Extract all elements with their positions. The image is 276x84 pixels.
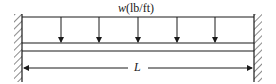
load-arrows (61, 17, 215, 42)
span-label: L (131, 61, 144, 73)
beam (22, 43, 254, 51)
left-fixed-support (14, 14, 22, 82)
load-label: w(lb/ft) (118, 2, 154, 14)
load-units: (lb/ft) (126, 1, 154, 15)
load-symbol: w (118, 1, 126, 15)
right-fixed-support (254, 14, 262, 82)
